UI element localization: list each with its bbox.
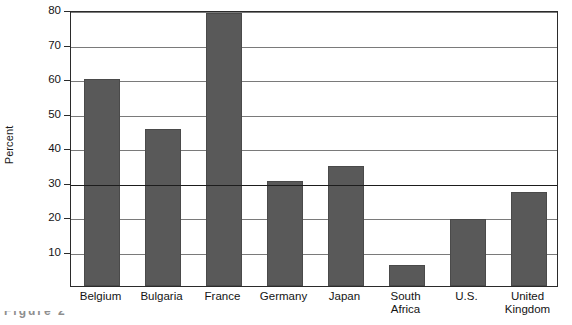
x-axis-label-united-kingdom: UnitedKingdom <box>497 290 558 316</box>
bar-chart-figure: Percent 1020304050607080 BelgiumBulgaria… <box>0 0 572 325</box>
y-tick-label-70: 70 <box>15 40 61 52</box>
y-tick-label-30: 30 <box>15 178 61 190</box>
y-tick-label-10: 10 <box>15 247 61 259</box>
bar-bulgaria[interactable] <box>145 129 181 286</box>
x-label-line: Africa <box>375 303 436 316</box>
y-tick-label-80: 80 <box>15 5 61 17</box>
y-tick-label-20: 20 <box>15 212 61 224</box>
y-tick-label-60: 60 <box>15 74 61 86</box>
bar-united-kingdom[interactable] <box>511 192 547 286</box>
x-label-line: U.S. <box>455 290 477 302</box>
bar-france[interactable] <box>206 13 242 286</box>
x-label-line: Japan <box>329 290 360 302</box>
x-label-line: Bulgaria <box>140 290 182 302</box>
plot-area <box>70 11 558 287</box>
x-axis-label-south-africa: SouthAfrica <box>375 290 436 316</box>
y-tick-label-40: 40 <box>15 143 61 155</box>
x-label-line: Belgium <box>80 290 122 302</box>
figure-caption: Figure 2 <box>4 311 124 325</box>
x-axis-label-belgium: Belgium <box>70 290 131 303</box>
x-axis-label-france: France <box>192 290 253 303</box>
bars-layer <box>71 12 557 286</box>
figure-caption-text: Figure 2 <box>4 311 124 318</box>
bar-germany[interactable] <box>267 181 303 286</box>
x-axis-label-u-s: U.S. <box>436 290 497 303</box>
bar-south-africa[interactable] <box>389 265 425 286</box>
y-tick-label-50: 50 <box>15 109 61 121</box>
x-axis-label-germany: Germany <box>253 290 314 303</box>
x-label-line: France <box>205 290 241 302</box>
x-label-line: South <box>390 290 420 302</box>
x-axis-label-bulgaria: Bulgaria <box>131 290 192 303</box>
x-label-line: United <box>511 290 544 302</box>
bar-u-s[interactable] <box>450 219 486 286</box>
y-axis-tick-layer: 1020304050607080 <box>0 11 70 287</box>
gridline-30 <box>71 185 557 186</box>
x-label-line: Germany <box>260 290 307 302</box>
x-label-line: Kingdom <box>497 303 558 316</box>
x-axis-label-layer: BelgiumBulgariaFranceGermanyJapanSouthAf… <box>70 290 558 324</box>
bar-belgium[interactable] <box>84 79 120 286</box>
x-axis-label-japan: Japan <box>314 290 375 303</box>
